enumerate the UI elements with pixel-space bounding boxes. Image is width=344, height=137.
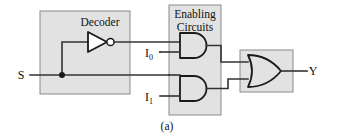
figure-container: Decoder Enabling Circuits S I0 I1 Y (a) <box>0 0 344 137</box>
data1-input-label: I1 <box>145 90 153 106</box>
and-gate-0 <box>180 33 207 58</box>
output-label: Y <box>309 64 318 78</box>
figure-caption: (a) <box>161 120 174 133</box>
inverter-bubble-icon <box>107 38 114 45</box>
and-gate-1 <box>180 76 207 101</box>
wire-junction-dot <box>59 72 65 78</box>
data0-input-label: I0 <box>145 46 153 62</box>
enabling-block-label-line1: Enabling <box>174 8 216 21</box>
select-input-label: S <box>18 68 25 82</box>
enabling-block-label-line2: Circuits <box>177 21 214 33</box>
decoder-block-label: Decoder <box>81 16 120 28</box>
logic-diagram: Decoder Enabling Circuits S I0 I1 Y (a) <box>0 0 344 137</box>
